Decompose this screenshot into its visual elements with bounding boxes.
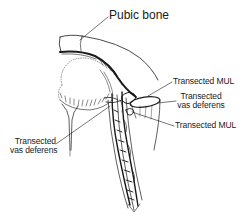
leader-mul-lower	[132, 112, 174, 126]
pubic-bone-shape	[59, 35, 158, 97]
leader-pubic-bone	[80, 17, 108, 40]
leader-vas-left	[56, 106, 110, 144]
leader-vas-right	[158, 101, 176, 103]
label-transected-vas-left-line2: vas deferens	[10, 146, 56, 155]
anatomical-illustration: Pubic bone Transected MUL Transected vas…	[0, 0, 246, 218]
label-transected-mul-lower: Transected MUL	[175, 121, 236, 130]
label-transected-vas-right: Transected vas deferens	[176, 92, 226, 111]
label-pubic-bone: Pubic bone	[109, 9, 169, 22]
label-transected-vas-right-line2: vas deferens	[176, 101, 226, 110]
leader-mul-upper	[148, 82, 172, 96]
label-transected-vas-left: Transected vas deferens	[10, 137, 56, 156]
label-transected-mul-upper: Transected MUL	[173, 77, 234, 86]
spermatic-cord-shape	[108, 92, 142, 212]
bulb-shape	[58, 58, 113, 110]
